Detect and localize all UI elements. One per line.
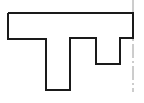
diagram-canvas	[0, 0, 144, 103]
profile-outline-shape	[8, 13, 133, 90]
